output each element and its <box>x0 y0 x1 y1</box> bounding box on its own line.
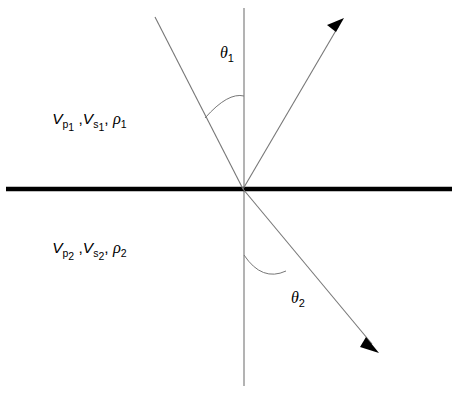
upper-comma-1: , <box>74 110 83 127</box>
upper-comma-2: , <box>104 110 113 127</box>
lower-rho-symbol: ρ <box>112 238 121 257</box>
seismic-interface-ray-diagram: Vp1 ,Vs1, ρ1 Vp2 ,Vs2, ρ2 θ1 θ2 <box>0 0 457 395</box>
lower-comma-1: , <box>74 239 83 256</box>
upper-rho-symbol: ρ <box>112 109 121 128</box>
lower-rho-subscript-index: 2 <box>121 247 127 259</box>
upper-rho-subscript-index: 1 <box>121 118 127 130</box>
diagram-canvas: Vp1 ,Vs1, ρ1 Vp2 ,Vs2, ρ2 θ1 θ2 <box>0 0 457 395</box>
lower-comma-2: , <box>104 239 113 256</box>
theta1-subscript: 1 <box>228 52 234 64</box>
theta1-symbol: θ <box>220 44 228 61</box>
theta2-symbol: θ <box>291 289 299 306</box>
theta2-subscript: 2 <box>299 297 305 309</box>
